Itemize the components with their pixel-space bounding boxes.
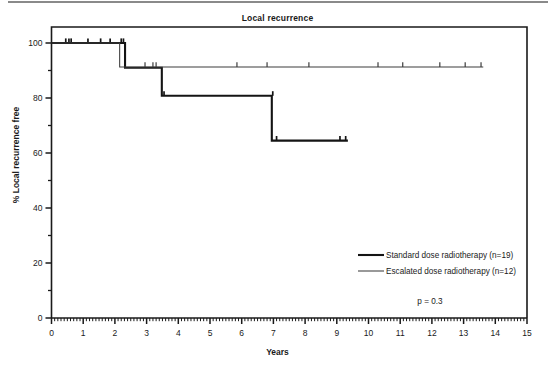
- y-tick-label: 100: [28, 38, 42, 48]
- x-tick-label: 10: [364, 328, 374, 338]
- y-tick-label: 0: [38, 313, 43, 323]
- p-value-annotation: p = 0.3: [417, 297, 443, 306]
- x-tick-label: 14: [491, 328, 501, 338]
- curve-standard-dose: [52, 43, 348, 141]
- y-tick-label: 60: [33, 148, 43, 158]
- x-tick-label: 12: [427, 328, 437, 338]
- legend-label-standard-dose: Standard dose radiotherapy (n=19): [386, 251, 513, 260]
- x-tick-label: 8: [303, 328, 308, 338]
- x-tick-label: 2: [113, 328, 118, 338]
- x-tick-label: 13: [459, 328, 469, 338]
- x-tick-label: 9: [334, 328, 339, 338]
- legend-label-escalated-dose: Escalated dose radiotherapy (n=12): [386, 267, 516, 276]
- kaplan-meier-figure: Local recurrence % Local recurrence free…: [0, 0, 555, 365]
- x-tick-label: 0: [49, 328, 54, 338]
- x-tick-label: 3: [144, 328, 149, 338]
- plot-area: 0204060801000123456789101112131415Standa…: [0, 0, 555, 365]
- x-tick-label: 7: [271, 328, 276, 338]
- y-tick-label: 80: [33, 93, 43, 103]
- y-tick-label: 40: [33, 203, 43, 213]
- x-tick-label: 5: [208, 328, 213, 338]
- x-tick-label: 4: [176, 328, 181, 338]
- x-tick-label: 1: [81, 328, 86, 338]
- y-tick-label: 20: [33, 258, 43, 268]
- x-tick-label: 15: [522, 328, 532, 338]
- x-tick-label: 6: [239, 328, 244, 338]
- x-tick-label: 11: [396, 328, 405, 338]
